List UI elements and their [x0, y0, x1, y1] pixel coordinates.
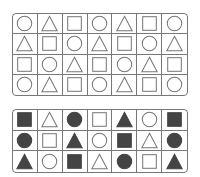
grid-cell: [38, 34, 63, 54]
grid-cell: [63, 110, 88, 131]
outline-circle-icon: [16, 76, 33, 93]
grid-cell: [112, 14, 137, 34]
filled-triangle-icon: [66, 132, 83, 149]
grid-cell: [137, 131, 162, 152]
outline-circle-icon: [166, 76, 183, 93]
grid-cell: [112, 34, 137, 54]
outline-square-icon: [41, 35, 58, 52]
grid-cell: [88, 110, 113, 131]
outline-square-icon: [91, 56, 108, 73]
grid-cell: [13, 131, 38, 152]
grid-cell: [13, 55, 38, 75]
filled-square-icon: [116, 132, 133, 149]
grid-cell: [162, 131, 187, 152]
outline-square-icon: [141, 153, 158, 170]
grid-cell: [112, 55, 137, 75]
filled-circle-icon: [166, 132, 183, 149]
grid-cell: [63, 131, 88, 152]
grid-cell: [137, 55, 162, 75]
outline-circle-icon: [141, 35, 158, 52]
grid-cell: [88, 131, 113, 152]
outline-triangle-icon: [41, 111, 58, 128]
grid-cell: [38, 75, 63, 95]
grid-cell: [13, 110, 38, 131]
filled-square-icon: [166, 111, 183, 128]
outline-square-icon: [91, 111, 108, 128]
outline-square-icon: [141, 15, 158, 32]
grid-cell: [88, 55, 113, 75]
outline-triangle-icon: [66, 56, 83, 73]
grid-cell: [38, 14, 63, 34]
grid-cell: [137, 151, 162, 172]
grid-cell: [38, 55, 63, 75]
grid-cell: [112, 151, 137, 172]
grid-cell: [137, 34, 162, 54]
grid-cell: [38, 110, 63, 131]
outline-square-icon: [16, 56, 33, 73]
outline-triangle-icon: [116, 76, 133, 93]
outline-circle-icon: [41, 153, 58, 170]
grid-cell: [88, 151, 113, 172]
grid-cell: [112, 131, 137, 152]
grid-cell: [162, 151, 187, 172]
grid-cell: [137, 110, 162, 131]
outline-circle-icon: [116, 56, 133, 73]
grid-cell: [112, 110, 137, 131]
filled-circle-icon: [16, 132, 33, 149]
filled-triangle-icon: [116, 111, 133, 128]
grid-cell: [162, 34, 187, 54]
outline-triangle-icon: [91, 153, 108, 170]
grid-cell: [63, 55, 88, 75]
outline-circle-icon: [91, 132, 108, 149]
grid-cell: [162, 14, 187, 34]
top-shape-grid: [12, 13, 188, 96]
outline-circle-icon: [66, 35, 83, 52]
outline-triangle-icon: [41, 76, 58, 93]
outline-circle-icon: [166, 15, 183, 32]
grid-cell: [88, 14, 113, 34]
outline-square-icon: [41, 132, 58, 149]
outline-triangle-icon: [141, 56, 158, 73]
filled-square-icon: [66, 153, 83, 170]
grid-cell: [13, 14, 38, 34]
grid-cell: [13, 151, 38, 172]
grid-cell: [88, 75, 113, 95]
outline-circle-icon: [41, 56, 58, 73]
outline-triangle-icon: [91, 35, 108, 52]
filled-circle-icon: [66, 111, 83, 128]
outline-circle-icon: [16, 15, 33, 32]
grid-cell: [88, 34, 113, 54]
grid-cell: [137, 75, 162, 95]
grid-cell: [38, 151, 63, 172]
outline-square-icon: [66, 76, 83, 93]
outline-square-icon: [166, 56, 183, 73]
filled-circle-icon: [116, 153, 133, 170]
outline-triangle-icon: [41, 15, 58, 32]
filled-square-icon: [16, 111, 33, 128]
outline-square-icon: [141, 76, 158, 93]
grid-cell: [13, 34, 38, 54]
outline-triangle-icon: [16, 35, 33, 52]
grid-cell: [137, 14, 162, 34]
grid-cell: [162, 55, 187, 75]
outline-square-icon: [116, 35, 133, 52]
grid-cell: [162, 75, 187, 95]
outline-circle-icon: [91, 15, 108, 32]
filled-triangle-icon: [16, 153, 33, 170]
outline-triangle-icon: [116, 15, 133, 32]
outline-triangle-icon: [141, 132, 158, 149]
grid-cell: [63, 14, 88, 34]
grid-cell: [112, 75, 137, 95]
outline-triangle-icon: [166, 35, 183, 52]
grid-cell: [63, 75, 88, 95]
outline-circle-icon: [91, 76, 108, 93]
filled-triangle-icon: [166, 153, 183, 170]
grid-cell: [162, 110, 187, 131]
grid-cell: [63, 34, 88, 54]
outline-circle-icon: [141, 111, 158, 128]
grid-cell: [13, 75, 38, 95]
bottom-shape-grid: [12, 109, 188, 173]
grid-cell: [38, 131, 63, 152]
outline-square-icon: [66, 15, 83, 32]
grid-cell: [63, 151, 88, 172]
